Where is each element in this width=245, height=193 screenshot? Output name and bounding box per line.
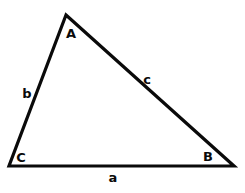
triangle-diagram: A B C a b c [0,0,245,193]
triangle-outline [9,15,234,166]
side-label-b: b [22,87,31,100]
side-label-c: c [143,73,151,86]
side-label-a: a [109,171,118,184]
vertex-label-a: A [66,27,76,40]
triangle-shape [0,0,245,193]
vertex-label-c: C [16,151,26,164]
vertex-label-b: B [203,150,213,163]
